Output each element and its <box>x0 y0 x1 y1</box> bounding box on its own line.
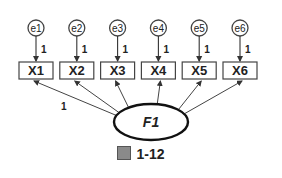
observed-label: X1 <box>28 63 44 78</box>
figure-caption: 1-12 <box>0 146 282 162</box>
error-label: e6 <box>234 23 246 34</box>
error-loading-label: 1 <box>123 44 129 55</box>
fixed-loading-label: 1 <box>61 101 67 112</box>
observed-label: X2 <box>69 63 85 78</box>
observed-label: X5 <box>191 63 207 78</box>
loading-path <box>116 81 130 109</box>
observed-label: X4 <box>150 63 167 78</box>
error-label: e2 <box>71 23 83 34</box>
loading-path <box>157 81 160 105</box>
observed-label: X6 <box>232 63 248 78</box>
error-loading-label: 1 <box>204 44 210 55</box>
latent-label: F1 <box>143 114 160 130</box>
loading-path <box>34 81 118 116</box>
figure-icon <box>117 146 131 160</box>
loading-path <box>183 81 242 115</box>
loading-path <box>75 81 121 114</box>
error-label: e1 <box>30 23 42 34</box>
observed-label: X3 <box>110 63 126 78</box>
error-loading-label: 1 <box>163 44 169 55</box>
caption-text: 1-12 <box>136 146 164 162</box>
error-label: e3 <box>112 23 124 34</box>
error-label: e4 <box>153 23 165 34</box>
error-label: e5 <box>194 23 206 34</box>
error-loading-label: 1 <box>41 44 47 55</box>
error-loading-label: 1 <box>245 44 251 55</box>
error-loading-label: 1 <box>82 44 88 55</box>
